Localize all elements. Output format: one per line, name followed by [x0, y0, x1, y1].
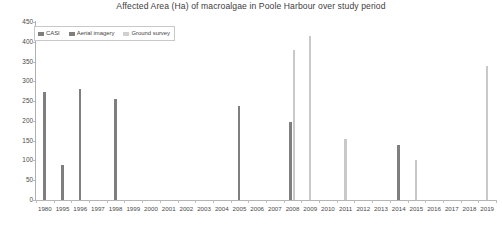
x-axis-tick-mark — [195, 200, 196, 203]
x-axis-tick-label: 2007 — [268, 206, 282, 212]
y-axis-tick-label: 300 — [3, 78, 33, 84]
x-axis-tick-label: 1980 — [38, 206, 52, 212]
y-axis-tick-mark — [32, 141, 35, 142]
y-axis-tick-mark — [32, 101, 35, 102]
bar — [43, 92, 46, 200]
legend-swatch-icon — [123, 32, 129, 36]
y-axis-tick-mark — [32, 22, 35, 23]
y-axis-tick-mark — [32, 42, 35, 43]
y-axis-tick-label: 250 — [3, 98, 33, 104]
bar — [486, 66, 489, 200]
x-axis-tick-label: 2017 — [445, 206, 459, 212]
x-axis-tick-mark — [213, 200, 214, 203]
x-axis-tick-label: 1999 — [126, 206, 140, 212]
legend-swatch-icon — [38, 32, 44, 36]
bar — [114, 99, 117, 200]
legend-item-casi[interactable]: CASI — [38, 31, 60, 37]
legend-label: Ground survey — [131, 31, 170, 37]
plot-area — [36, 22, 496, 200]
y-axis-tick-mark — [32, 81, 35, 82]
x-axis-tick-label: 2019 — [480, 206, 494, 212]
bar — [309, 36, 312, 200]
x-axis-tick-mark — [372, 200, 373, 203]
x-axis-tick-label: 2001 — [162, 206, 176, 212]
x-axis-tick-label: 1996 — [73, 206, 87, 212]
y-axis-tick-label: 150 — [3, 138, 33, 144]
x-axis-tick-mark — [89, 200, 90, 203]
bar — [289, 122, 292, 200]
x-axis-tick-mark — [461, 200, 462, 203]
x-axis-tick-mark — [390, 200, 391, 203]
x-axis-tick-mark — [142, 200, 143, 203]
x-axis-tick-mark — [319, 200, 320, 203]
x-axis-tick-mark — [124, 200, 125, 203]
legend-item-aerial[interactable]: Aerial imagery — [69, 31, 115, 37]
x-axis-tick-label: 2015 — [409, 206, 423, 212]
bar — [61, 165, 64, 200]
y-axis-tick-mark — [32, 160, 35, 161]
legend-label: Aerial imagery — [77, 31, 115, 37]
bar — [238, 106, 241, 200]
y-axis-tick-label: 50 — [3, 177, 33, 183]
y-axis-tick-label: 350 — [3, 59, 33, 65]
x-axis-tick-label: 2008 — [286, 206, 300, 212]
x-axis-tick-label: 2002 — [179, 206, 193, 212]
x-axis-tick-label: 2018 — [463, 206, 477, 212]
legend-swatch-icon — [69, 32, 75, 36]
x-axis-tick-label: 2013 — [374, 206, 388, 212]
x-axis-tick-mark — [54, 200, 55, 203]
x-axis-tick-mark — [284, 200, 285, 203]
x-axis-tick-label: 2011 — [339, 206, 352, 212]
x-axis-tick-mark — [443, 200, 444, 203]
x-axis-tick-label: 1998 — [109, 206, 123, 212]
x-axis-tick-mark — [248, 200, 249, 203]
y-axis-tick-mark — [32, 121, 35, 122]
x-axis-tick-mark — [160, 200, 161, 203]
x-axis-tick-mark — [337, 200, 338, 203]
x-axis-tick-label: 2010 — [321, 206, 335, 212]
x-axis-tick-mark — [408, 200, 409, 203]
y-axis-tick-label: 200 — [3, 118, 33, 124]
x-axis-tick-mark — [107, 200, 108, 203]
x-axis-tick-label: 1995 — [56, 206, 70, 212]
x-axis-tick-mark — [266, 200, 267, 203]
y-axis-tick-label: 0 — [3, 197, 33, 203]
y-axis-tick-label: 100 — [3, 157, 33, 163]
x-axis-tick-label: 2006 — [250, 206, 264, 212]
x-axis-tick-mark — [496, 200, 497, 203]
y-axis-tick-label: 450 — [3, 19, 33, 25]
y-axis-tick-mark — [32, 180, 35, 181]
x-axis-tick-label: 2009 — [303, 206, 317, 212]
x-axis-tick-mark — [71, 200, 72, 203]
x-axis-tick-label: 2003 — [197, 206, 211, 212]
x-axis-tick-mark — [478, 200, 479, 203]
x-axis-tick-label: 2016 — [427, 206, 441, 212]
y-axis-tick-mark — [32, 62, 35, 63]
x-axis-tick-label: 2005 — [233, 206, 247, 212]
x-axis-tick-label: 2012 — [356, 206, 370, 212]
chart-title: Affected Area (Ha) of macroalgae in Pool… — [0, 1, 502, 11]
x-axis-tick-mark — [425, 200, 426, 203]
chart-legend: CASIAerial imageryGround survey — [34, 26, 175, 41]
x-axis-tick-mark — [178, 200, 179, 203]
legend-label: CASI — [46, 31, 60, 37]
bar — [344, 139, 347, 200]
x-axis-tick-mark — [301, 200, 302, 203]
y-axis-tick-mark — [32, 200, 35, 201]
y-axis-tick-label: 400 — [3, 39, 33, 45]
x-axis-tick-mark — [36, 200, 37, 203]
x-axis-tick-label: 2004 — [215, 206, 229, 212]
chart-container: Affected Area (Ha) of macroalgae in Pool… — [0, 0, 502, 225]
bar — [79, 89, 82, 200]
x-axis-tick-mark — [354, 200, 355, 203]
x-axis-tick-label: 2000 — [144, 206, 158, 212]
legend-item-ground[interactable]: Ground survey — [123, 31, 170, 37]
bar — [415, 160, 418, 200]
x-axis-tick-label: 1997 — [91, 206, 105, 212]
bar — [397, 145, 400, 200]
x-axis-tick-label: 2014 — [392, 206, 406, 212]
x-axis-tick-mark — [231, 200, 232, 203]
bar — [293, 50, 296, 200]
